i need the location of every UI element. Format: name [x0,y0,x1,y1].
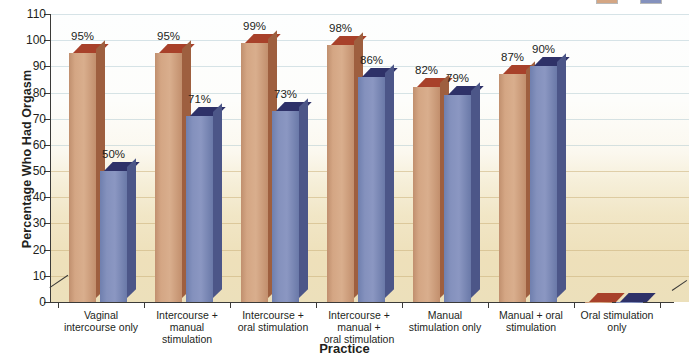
category-label-line: oral stimulation [308,333,410,345]
bar-men-1[interactable] [155,53,182,302]
category-label-6: Oral stimulationonly [566,309,668,333]
x-axis-tick [144,302,145,308]
x-axis-tick [574,302,575,308]
bar-face [100,171,127,302]
bar-face [530,66,557,302]
bar-side-face [557,54,566,298]
bar-face [413,87,440,302]
category-label-line: only [566,321,668,333]
bar-value-label: 90% [521,44,566,56]
legend [596,0,662,5]
x-axis-tick [488,302,489,308]
bar-face [155,53,182,302]
bar-side-face [471,82,480,298]
x-axis-tick [660,302,661,308]
bar-side-face [127,158,136,298]
x-axis-tick [316,302,317,308]
x-axis-tick [402,302,403,308]
bar-women-4[interactable] [444,95,471,302]
bar-value-label: 50% [91,149,136,161]
bar-men-2[interactable] [241,43,268,302]
bar-women-5[interactable] [530,66,557,302]
legend-swatch-icon [640,0,662,4]
bar-value-label: 95% [146,31,191,43]
legend-item-series-1[interactable] [596,0,618,5]
legend-item-series-2[interactable] [640,0,662,5]
bar-face [241,43,268,302]
bar-value-label: 98% [318,23,363,35]
bar-women-1[interactable] [186,116,213,302]
bar-face [499,74,526,302]
gridline [50,14,689,15]
bar-face [186,116,213,302]
bar-chart: 0102030405060708090100110 Percentage Who… [0,0,689,362]
bar-face [358,77,385,302]
bar-face [327,45,354,302]
x-axis-tick [58,302,59,308]
y-axis-tick-label: 110 [6,8,46,20]
y-axis-title: Percentage Who Had Orgasm [20,44,34,274]
bar-value-label: 79% [435,73,480,85]
bar-value-label: 71% [177,94,222,106]
bar-value-label: 73% [263,89,308,101]
bar-women-3[interactable] [358,77,385,302]
category-label-line: Oral stimulation [566,309,668,321]
bar-side-face [385,64,394,298]
bar-men-5[interactable] [499,74,526,302]
bar-value-label: 86% [349,55,394,67]
bar-men-4[interactable] [413,87,440,302]
legend-swatch-icon [596,0,618,4]
bar-face [69,53,96,302]
bar-women-6[interactable] [616,302,643,303]
bar-face [616,302,643,303]
bar-women-0[interactable] [100,171,127,302]
bar-face [444,95,471,302]
y-axis-line [50,14,51,302]
bar-women-2[interactable] [272,111,299,302]
bar-face [272,111,299,302]
bar-men-3[interactable] [327,45,354,302]
bar-men-0[interactable] [69,53,96,302]
y-axis-tick-label: 0 [6,296,46,308]
bar-value-label: 95% [60,31,105,43]
bar-face [585,302,612,303]
bar-side-face [299,98,308,298]
bar-value-label: 99% [232,21,277,33]
bar-side-face [213,103,222,298]
bar-men-6[interactable] [585,302,612,303]
x-axis-tick [230,302,231,308]
category-label-line: stimulation [136,333,238,345]
